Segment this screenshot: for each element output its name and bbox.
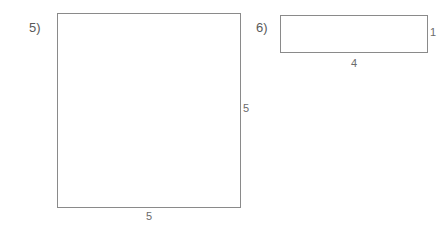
worksheet-canvas: 5) 5 5 6) 4 1	[0, 0, 443, 227]
problem-5-number: 5)	[29, 21, 41, 34]
problem-5-height-label: 5	[243, 103, 249, 114]
problem-5-square-shape	[57, 13, 241, 208]
problem-6-number: 6)	[256, 21, 268, 34]
problem-5-width-label: 5	[57, 211, 241, 222]
problem-6-rectangle-shape	[280, 15, 428, 53]
problem-6-width-label: 4	[280, 58, 428, 69]
problem-6-height-label: 1	[430, 27, 436, 38]
